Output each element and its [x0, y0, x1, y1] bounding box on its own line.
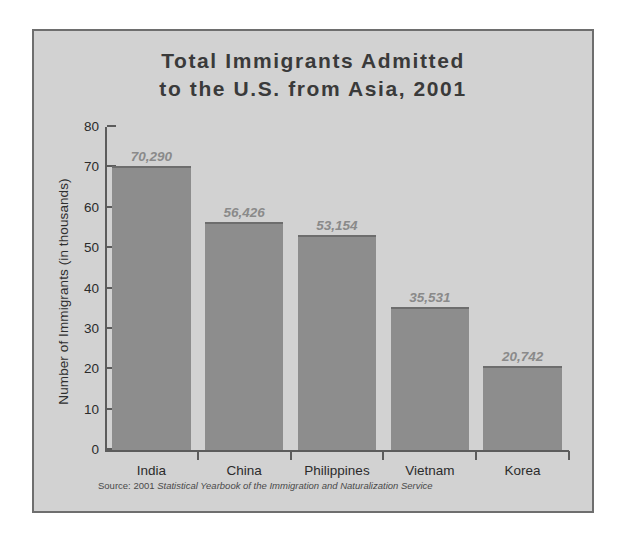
bar-value-label: 56,426: [224, 205, 265, 220]
bar: 56,426China: [205, 222, 283, 450]
source-prefix: Source: 2001: [98, 480, 157, 491]
bar-value-label: 53,154: [316, 218, 357, 233]
y-tick-label: 30: [84, 320, 99, 335]
x-tick: [290, 451, 292, 460]
x-tick: [382, 451, 384, 460]
bar-value-label: 20,742: [502, 349, 543, 364]
y-tick-label: 10: [84, 401, 99, 416]
x-category-label: Vietnam: [405, 463, 454, 478]
y-axis-title: Number of Immigrants (in thousands): [56, 132, 71, 452]
bar: 20,742Korea: [483, 366, 561, 450]
bar: 35,531Vietnam: [391, 307, 469, 450]
bar: 70,290India: [112, 166, 190, 450]
source-note: Source: 2001 Statistical Yearbook of the…: [98, 480, 433, 491]
bar-value-label: 70,290: [131, 149, 172, 164]
plot-area: 01020304050607080 70,290India56,426China…: [105, 127, 569, 450]
x-category-label: Philippines: [304, 463, 369, 478]
chart-title: Total Immigrants Admitted to the U.S. fr…: [34, 47, 592, 103]
y-tick-label: 0: [91, 442, 99, 457]
y-axis-line: [105, 127, 107, 450]
x-tick: [568, 451, 570, 460]
x-category-label: India: [137, 463, 166, 478]
y-tick-label: 50: [84, 240, 99, 255]
bar: 53,154Philippines: [298, 235, 376, 450]
y-tick-label: 20: [84, 361, 99, 376]
y-tick: 80: [107, 125, 116, 127]
y-tick-label: 80: [84, 119, 99, 134]
x-tick: [475, 451, 477, 460]
chart-title-line-2: to the U.S. from Asia, 2001: [34, 75, 592, 103]
x-axis-line: [105, 450, 569, 452]
y-tick-label: 70: [84, 159, 99, 174]
chart-figure: Total Immigrants Admitted to the U.S. fr…: [32, 29, 594, 513]
y-tick-label: 40: [84, 280, 99, 295]
y-tick-label: 60: [84, 199, 99, 214]
chart-title-line-1: Total Immigrants Admitted: [34, 47, 592, 75]
x-tick: [197, 451, 199, 460]
x-category-label: Korea: [505, 463, 541, 478]
x-category-label: China: [227, 463, 262, 478]
bar-value-label: 35,531: [409, 290, 450, 305]
source-title: Statistical Yearbook of the Immigration …: [157, 480, 432, 491]
